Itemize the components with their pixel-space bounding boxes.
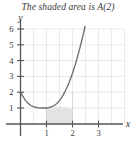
x-axis-label: x (125, 118, 131, 129)
y-axis-label: y (17, 14, 23, 23)
y-tick-label-4: 4 (9, 56, 14, 66)
figure-caption: The shaded area is A(2) (0, 1, 136, 13)
figure-container: The shaded area is A(2) (0, 0, 136, 150)
y-tick-label-6: 6 (9, 24, 13, 34)
x-tick-label-1: 1 (44, 128, 48, 138)
parabola-curve (21, 27, 86, 109)
x-tick-label-3: 3 (96, 128, 100, 138)
y-tick-label-1: 1 (9, 103, 13, 113)
y-tick-label-3: 3 (9, 71, 13, 81)
x-tick-label-2: 2 (70, 128, 74, 138)
shaded-area-region (47, 107, 73, 124)
y-tick-label-5: 5 (9, 40, 13, 50)
y-tick-label-2: 2 (9, 87, 13, 97)
parabola-plot: 1 2 3 1 2 3 4 5 6 y x (0, 14, 136, 150)
